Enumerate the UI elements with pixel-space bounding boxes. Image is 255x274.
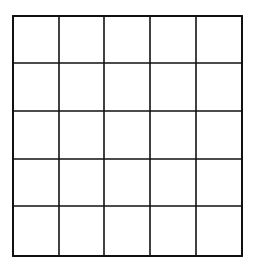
grid-cell-r1-c1 — [13, 16, 59, 63]
grid-cell-r4-c2 — [59, 159, 104, 206]
grid-cell-r1-c5 — [196, 16, 242, 63]
grid-cell-r2-c1 — [13, 63, 59, 111]
grid-cell-r5-c5 — [196, 206, 242, 256]
grid-cells — [13, 16, 242, 256]
grid-cell-r3-c1 — [13, 111, 59, 159]
grid-cell-r1-c2 — [59, 16, 104, 63]
grid-cell-r5-c3 — [104, 206, 150, 256]
grid-cell-r2-c5 — [196, 63, 242, 111]
grid-cell-r4-c5 — [196, 159, 242, 206]
grid-cell-r3-c4 — [150, 111, 196, 159]
grid-cell-r3-c5 — [196, 111, 242, 159]
grid-cell-r5-c1 — [13, 206, 59, 256]
grid-cell-r2-c3 — [104, 63, 150, 111]
grid-cell-r2-c2 — [59, 63, 104, 111]
grid-cell-r5-c2 — [59, 206, 104, 256]
grid-cell-r1-c4 — [150, 16, 196, 63]
grid-cell-r4-c1 — [13, 159, 59, 206]
grid-cell-r4-c3 — [104, 159, 150, 206]
grid-cell-r2-c4 — [150, 63, 196, 111]
grid-diagram — [0, 0, 255, 274]
grid-cell-r5-c4 — [150, 206, 196, 256]
grid-cell-r1-c3 — [104, 16, 150, 63]
grid-cell-r3-c3 — [104, 111, 150, 159]
grid-cell-r3-c2 — [59, 111, 104, 159]
grid-cell-r4-c4 — [150, 159, 196, 206]
